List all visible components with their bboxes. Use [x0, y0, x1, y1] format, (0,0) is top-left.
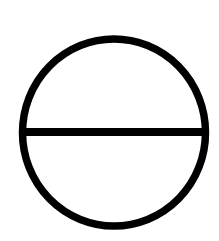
- diagram-canvas: [0, 0, 219, 241]
- circle-with-diameter-icon: [0, 0, 219, 241]
